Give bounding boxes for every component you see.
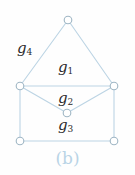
region-label-g3-sub: 3 — [68, 124, 74, 134]
node-mid-right — [110, 82, 118, 90]
node-bottom-right — [110, 137, 118, 145]
region-label-g3-base: g — [58, 116, 68, 134]
region-label-g3: g3 — [58, 118, 73, 133]
node-top — [64, 16, 72, 24]
graph-figure: g4 g1 g2 g3 (b) — [0, 0, 135, 175]
region-label-g2-sub: 2 — [68, 97, 74, 107]
region-label-g2: g2 — [58, 91, 73, 106]
node-mid-left — [16, 82, 24, 90]
figure-caption: (b) — [0, 150, 135, 167]
region-label-g2-base: g — [58, 89, 68, 107]
edge-midright-center — [67, 86, 114, 113]
region-label-g4-base: g — [17, 39, 27, 57]
region-label-g1-sub: 1 — [68, 66, 74, 76]
node-bottom-left — [16, 137, 24, 145]
region-label-g1: g1 — [58, 60, 73, 75]
edge-top-midright — [68, 20, 114, 86]
region-label-g4-sub: 4 — [27, 47, 33, 57]
region-label-g1-base: g — [58, 58, 68, 76]
region-label-g4: g4 — [17, 41, 32, 56]
